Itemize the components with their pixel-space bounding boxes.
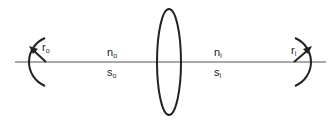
object-radius-label: ro — [42, 42, 50, 54]
object-index-label: no — [107, 47, 117, 59]
image-index-label: ni — [214, 47, 222, 59]
optical-diagram — [0, 0, 336, 123]
image-radius-label: ri — [291, 45, 296, 57]
object-distance-label: so — [107, 67, 116, 79]
image-distance-label: si — [214, 67, 221, 79]
